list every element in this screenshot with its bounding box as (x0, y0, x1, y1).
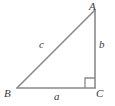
vertex-label-c: C (96, 88, 103, 99)
vertex-label-a: A (89, 1, 96, 12)
right-angle-marker-icon (85, 78, 95, 88)
side-label-c: c (39, 39, 44, 50)
side-label-b: b (99, 39, 105, 50)
side-c-hypotenuse (17, 10, 95, 88)
side-label-a: a (54, 91, 60, 102)
vertex-label-b: B (4, 88, 11, 99)
right-triangle-figure: A B C a b c (0, 0, 115, 106)
